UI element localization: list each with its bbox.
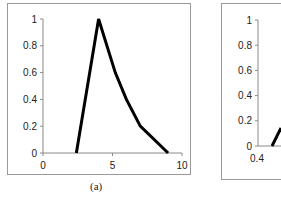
y-tick-label: 0.6 — [23, 67, 37, 78]
chart-canvas: 00.20.40.60.81051000.20.40.60.810.4 — [0, 0, 281, 197]
series-line — [76, 19, 168, 153]
y-tick-label-b: 0.4 — [238, 90, 252, 101]
x-tick-label: 0 — [40, 160, 46, 171]
y-tick-label-b: 0 — [246, 141, 252, 152]
series-line-b — [272, 128, 281, 146]
x-tick-label: 5 — [110, 160, 116, 171]
y-tick-label: 0 — [31, 148, 37, 159]
y-tick-label-b: 0.2 — [238, 115, 252, 126]
x-tick-label-b: 0.4 — [250, 153, 264, 164]
caption-a: (a) — [90, 180, 102, 192]
y-tick-label: 1 — [31, 14, 37, 25]
y-tick-label: 0.4 — [23, 94, 37, 105]
y-tick-label: 0.8 — [23, 40, 37, 51]
y-tick-label: 0.2 — [23, 121, 37, 132]
x-tick-label: 10 — [176, 160, 188, 171]
y-tick-label-b: 1 — [246, 15, 252, 26]
y-tick-label-b: 0.6 — [238, 65, 252, 76]
y-tick-label-b: 0.8 — [238, 40, 252, 51]
